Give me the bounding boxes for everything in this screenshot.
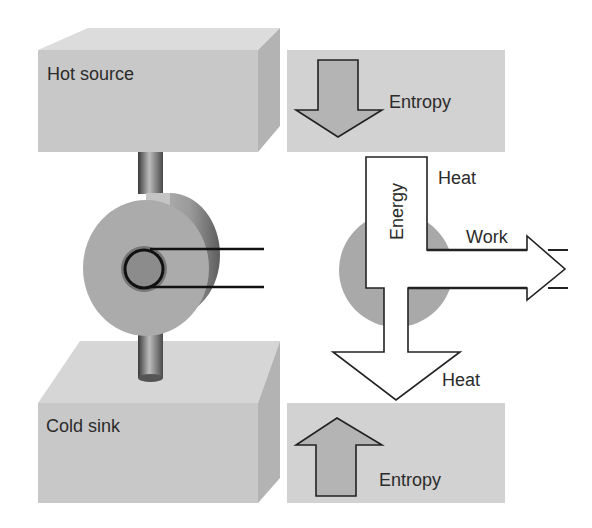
hot-source-block: Hot source	[38, 28, 280, 152]
engine-cylinder	[83, 193, 264, 336]
heat-in-label: Heat	[438, 168, 476, 188]
heat-out-label: Heat	[442, 370, 480, 390]
energy-flow-shape	[333, 157, 565, 400]
lower-rod-end	[138, 374, 163, 382]
lower-rod	[138, 330, 163, 378]
hot-source-label: Hot source	[47, 64, 134, 84]
heat-engine-diagram: Hot source Cold sink Entropy Entropy	[0, 0, 592, 528]
engine-core-ring	[125, 250, 163, 288]
entropy-out-label: Entropy	[379, 470, 441, 490]
entropy-in-label: Entropy	[389, 92, 451, 112]
energy-label: Energy	[387, 183, 407, 240]
work-label: Work	[466, 227, 509, 247]
hot-source-top-face	[38, 28, 280, 50]
upper-rod	[138, 152, 163, 194]
entropy-in-panel: Entropy	[287, 50, 505, 152]
energy-flow-arrow: Energy	[333, 157, 568, 400]
entropy-out-panel: Entropy	[287, 403, 505, 503]
cold-sink-label: Cold sink	[46, 416, 121, 436]
